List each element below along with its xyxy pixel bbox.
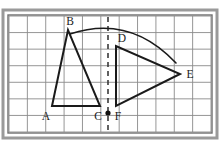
center-of-rotation-dot xyxy=(105,110,110,115)
vertex-label-f: F xyxy=(115,110,121,122)
vertex-label-e: E xyxy=(186,68,193,80)
geometry-diagram-svg: ABCDEF xyxy=(0,0,220,145)
vertex-label-a: A xyxy=(42,110,51,122)
vertex-label-c: C xyxy=(94,110,102,122)
vertex-label-d: D xyxy=(118,32,126,44)
vertex-label-b: B xyxy=(66,15,74,27)
geometry-figure-container: ABCDEF xyxy=(0,0,220,145)
